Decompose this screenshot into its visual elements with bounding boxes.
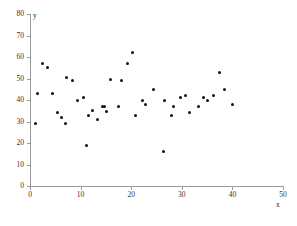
data-point bbox=[56, 111, 59, 114]
x-axis-title: x bbox=[276, 201, 280, 209]
data-point bbox=[231, 103, 234, 106]
data-point bbox=[206, 99, 209, 102]
x-axis-tick-label: 20 bbox=[121, 191, 141, 199]
data-point bbox=[188, 111, 191, 114]
y-axis-tick-label: 30 bbox=[8, 118, 24, 126]
x-axis-tick-label: 40 bbox=[222, 191, 242, 199]
x-axis-line bbox=[30, 186, 284, 187]
data-point bbox=[134, 114, 137, 117]
y-axis-tick-label: 60 bbox=[8, 53, 24, 61]
y-axis-tick-label: 70 bbox=[8, 32, 24, 40]
data-point bbox=[36, 92, 39, 95]
data-point bbox=[65, 76, 68, 79]
data-point bbox=[223, 88, 226, 91]
data-point bbox=[152, 88, 155, 91]
data-point bbox=[41, 62, 44, 65]
data-point bbox=[117, 105, 120, 108]
data-point bbox=[170, 114, 173, 117]
x-axis-tick-label: 50 bbox=[273, 191, 293, 199]
y-axis-tick-label: 80 bbox=[8, 10, 24, 18]
data-point bbox=[76, 99, 79, 102]
data-point bbox=[64, 122, 67, 125]
data-point bbox=[87, 114, 90, 117]
x-axis-tick-label: 30 bbox=[172, 191, 192, 199]
data-point bbox=[71, 79, 74, 82]
data-point bbox=[105, 110, 108, 113]
data-point bbox=[103, 105, 106, 108]
y-axis-tick-label: 0 bbox=[8, 182, 24, 190]
data-point bbox=[85, 144, 88, 147]
data-point bbox=[82, 96, 85, 99]
plot-area bbox=[30, 14, 283, 186]
data-point bbox=[51, 92, 54, 95]
y-axis-tick-label: 10 bbox=[8, 161, 24, 169]
x-axis-tick-label: 0 bbox=[20, 191, 40, 199]
data-point bbox=[141, 99, 144, 102]
data-point bbox=[109, 78, 112, 81]
data-point bbox=[96, 118, 99, 121]
data-point bbox=[218, 71, 221, 74]
data-point bbox=[172, 105, 175, 108]
data-point bbox=[46, 66, 49, 69]
data-point bbox=[179, 96, 182, 99]
data-point bbox=[131, 51, 134, 54]
scatter-plot-figure: y x 01020304050607080 01020304050 bbox=[0, 0, 297, 226]
data-point bbox=[202, 96, 205, 99]
data-point bbox=[163, 99, 166, 102]
data-point bbox=[34, 122, 37, 125]
data-point bbox=[91, 109, 94, 112]
data-point bbox=[197, 105, 200, 108]
data-point bbox=[184, 94, 187, 97]
y-axis-tick-label: 20 bbox=[8, 139, 24, 147]
data-point bbox=[212, 94, 215, 97]
y-axis-tick-label: 40 bbox=[8, 96, 24, 104]
y-axis-tick-label: 50 bbox=[8, 75, 24, 83]
data-point bbox=[120, 79, 123, 82]
x-axis-tick-label: 10 bbox=[71, 191, 91, 199]
data-point bbox=[144, 103, 147, 106]
data-point bbox=[60, 116, 63, 119]
data-point bbox=[162, 150, 165, 153]
data-point bbox=[126, 62, 129, 65]
